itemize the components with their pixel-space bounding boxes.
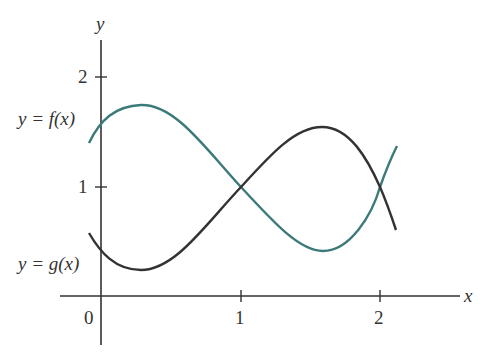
g-curve <box>89 127 396 270</box>
x-tick-label-2: 2 <box>374 307 384 328</box>
f-curve <box>89 105 397 251</box>
y-axis-label: y <box>94 13 105 34</box>
y-tick-label-1: 1 <box>78 176 88 197</box>
g-curve-label: y = g(x) <box>16 253 79 275</box>
x-tick-label-0: 0 <box>84 307 94 328</box>
x-tick-label-1: 1 <box>235 307 245 328</box>
graph: y x 2 1 0 1 2 y = f(x) y = g(x) <box>0 0 492 358</box>
y-tick-label-2: 2 <box>78 66 88 87</box>
f-curve-label: y = f(x) <box>16 108 75 130</box>
x-axis-label: x <box>463 285 473 306</box>
